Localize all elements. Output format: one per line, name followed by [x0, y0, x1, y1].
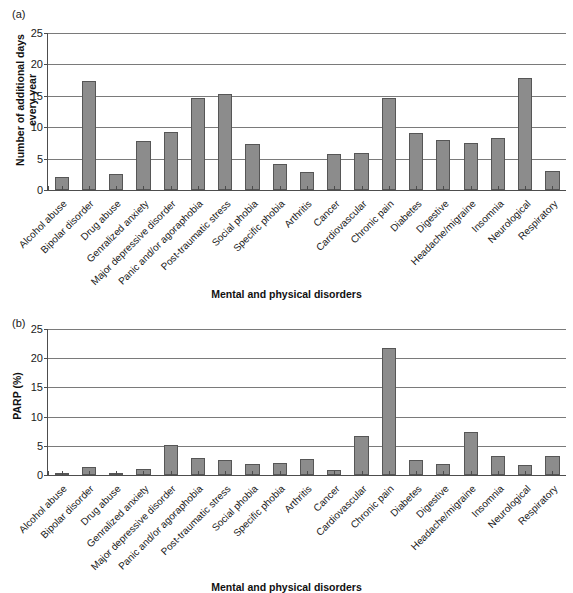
bar: [518, 78, 532, 190]
panel-b-bars: [48, 329, 566, 475]
x-label-slot: Insomnia: [484, 481, 511, 573]
panel-a-x-tick-mark: [143, 186, 144, 190]
x-label-slot: Chronic pain: [375, 481, 402, 573]
panel-a-x-tick-mark: [498, 186, 499, 190]
panel-b-x-tick-mark: [89, 471, 90, 475]
panel-a-letter: (a): [12, 8, 25, 20]
bar: [82, 81, 96, 190]
bar-slot: [402, 33, 429, 190]
panel-b-y-tick-label: 10: [31, 411, 43, 423]
x-label-slot: Specific phobia: [266, 481, 293, 573]
panel-b-y-tick-label: 0: [37, 469, 43, 481]
panel-b-x-tick-mark: [552, 471, 553, 475]
bar-slot: [48, 33, 75, 190]
bar-slot: [184, 33, 211, 190]
bar-slot: [375, 33, 402, 190]
panel-b-x-tick-mark: [416, 471, 417, 475]
bar-slot: [184, 329, 211, 475]
panel-b-y-tick-label: 5: [37, 440, 43, 452]
bar-slot: [457, 329, 484, 475]
bar-slot: [402, 329, 429, 475]
panel-a-x-tick-mark: [334, 186, 335, 190]
panel-b-x-tick-mark: [225, 471, 226, 475]
panel-a-y-tick-label: 0: [37, 184, 43, 196]
panel-b-x-tick-labels: Alcohol abuseBipolar disorderDrug abuseG…: [47, 481, 566, 573]
panel-a-x-tick-mark: [198, 186, 199, 190]
x-label-slot: Headache/migraine: [457, 196, 484, 288]
panel-a-x-tick-mark: [280, 186, 281, 190]
panel-b-x-tick-mark: [62, 471, 63, 475]
x-label-slot: Specific phobia: [266, 196, 293, 288]
bar-slot: [75, 33, 102, 190]
bar-slot: [539, 329, 566, 475]
panel-a-x-tick-mark: [89, 186, 90, 190]
bar-slot: [293, 33, 320, 190]
panel-a-x-tick-mark: [48, 186, 49, 190]
panel-a-y-tick-mark: [44, 190, 48, 191]
bar-slot: [239, 329, 266, 475]
panel-a-y-tick-label: 10: [31, 121, 43, 133]
bar-slot: [103, 329, 130, 475]
bar-slot: [157, 33, 184, 190]
panel-a-x-tick-mark: [171, 186, 172, 190]
bar-slot: [430, 33, 457, 190]
bar-slot: [321, 33, 348, 190]
panel-a-bars: [48, 33, 566, 190]
panel-a-y-tick-label: 20: [31, 58, 43, 70]
panel-b-y-tick-label: 15: [31, 381, 43, 393]
panel-b-plot: 0510152025: [47, 329, 566, 476]
bar-slot: [212, 33, 239, 190]
panel-a-x-tick-mark: [389, 186, 390, 190]
bar: [464, 432, 478, 475]
panel-b-letter: (b): [12, 317, 25, 329]
bar-slot: [484, 33, 511, 190]
panel-a-x-tick-mark: [252, 186, 253, 190]
x-label-slot: Neurological: [511, 196, 538, 288]
bar: [409, 133, 423, 190]
x-label-slot: Chronic pain: [375, 196, 402, 288]
x-label-slot: Cardiovascular: [347, 196, 374, 288]
bar: [218, 94, 232, 190]
panel-a-x-tick-labels: Alcohol abuseBipolar disorderDrug abuseG…: [47, 196, 566, 288]
bar-slot: [348, 33, 375, 190]
bar-slot: [130, 329, 157, 475]
bar: [327, 154, 341, 190]
x-label-slot: Neurological: [511, 481, 538, 573]
panel-b-x-tick-mark: [307, 471, 308, 475]
panel-b-x-tick-mark: [389, 471, 390, 475]
bar-slot: [539, 33, 566, 190]
bar: [382, 348, 396, 475]
panel-b-x-tick-mark: [362, 471, 363, 475]
bar-slot: [457, 33, 484, 190]
chart-panel-a: (a) Number of additional days every year…: [0, 0, 573, 310]
bar: [164, 132, 178, 190]
panel-b-y-tick-label: 20: [31, 352, 43, 364]
bar: [354, 436, 368, 475]
panel-b-y-axis-title: PARP (%): [11, 361, 23, 431]
panel-a-x-tick-mark: [116, 186, 117, 190]
panel-b-y-tick-mark: [44, 475, 48, 476]
panel-b-x-tick-mark: [48, 471, 49, 475]
bar: [136, 141, 150, 190]
panel-a-x-tick-mark: [443, 186, 444, 190]
panel-b-x-tick-mark: [116, 471, 117, 475]
bar-slot: [348, 329, 375, 475]
bar-slot: [48, 329, 75, 475]
panel-a-x-tick-mark: [307, 186, 308, 190]
x-label-slot: Cardiovascular: [347, 481, 374, 573]
panel-a-x-tick-mark: [416, 186, 417, 190]
bar-slot: [75, 329, 102, 475]
bar-slot: [212, 329, 239, 475]
bar: [436, 140, 450, 190]
bar-slot: [321, 329, 348, 475]
bar: [382, 98, 396, 190]
bar: [191, 98, 205, 190]
panel-a-x-tick-mark: [225, 186, 226, 190]
panel-a-plot-area: 0510152025: [47, 33, 566, 191]
panel-b-x-axis-title: Mental and physical disorders: [0, 581, 573, 593]
bar-slot: [130, 33, 157, 190]
panel-b-x-tick-mark: [334, 471, 335, 475]
x-label-slot: Respiratory: [539, 196, 566, 288]
panel-b-x-tick-mark: [252, 471, 253, 475]
bar-slot: [512, 329, 539, 475]
